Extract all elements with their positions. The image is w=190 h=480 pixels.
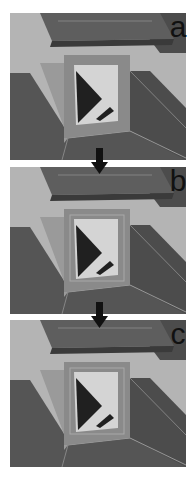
panel-a: a bbox=[10, 10, 187, 160]
arrow-shaft bbox=[96, 148, 103, 164]
roof-slab-top bbox=[40, 320, 174, 348]
panel-label: c bbox=[171, 317, 186, 350]
roof-slab-top bbox=[40, 167, 174, 195]
roof-slab-top bbox=[40, 13, 174, 41]
arrow-shaft bbox=[96, 302, 103, 318]
panel-label: b bbox=[170, 164, 187, 197]
scene bbox=[10, 167, 186, 314]
panel-b: b bbox=[10, 164, 186, 314]
scene bbox=[10, 13, 186, 160]
panel-label: a bbox=[170, 10, 187, 43]
scene bbox=[10, 320, 186, 467]
panel-c: c bbox=[10, 317, 186, 467]
figure: abc bbox=[0, 0, 190, 480]
